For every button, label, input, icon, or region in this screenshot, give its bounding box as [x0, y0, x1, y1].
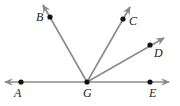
diagram-canvas: AEGBCD [0, 0, 180, 106]
point-B [47, 14, 52, 19]
point-A [18, 79, 23, 84]
label-A: A [13, 86, 22, 100]
rays-group [5, 5, 169, 82]
labels-group: AEGBCD [13, 10, 163, 100]
label-C: C [129, 14, 138, 28]
geometry-diagram: AEGBCD [0, 0, 180, 106]
point-G [84, 79, 89, 84]
label-B: B [36, 10, 44, 24]
label-E: E [148, 86, 157, 100]
point-C [120, 16, 125, 21]
label-G: G [83, 86, 92, 100]
point-D [147, 42, 152, 47]
point-E [147, 79, 152, 84]
label-D: D [153, 46, 163, 60]
